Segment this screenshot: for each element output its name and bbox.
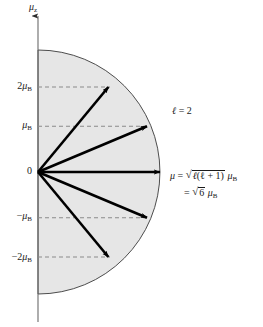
sqrt-radicand: ℓ(ℓ + 1): [192, 170, 225, 181]
unit-mu-symbol: μ: [208, 187, 213, 198]
sqrt-radical-icon: √: [192, 186, 198, 197]
tick-label-plus-mu-b: μB: [0, 120, 32, 130]
formula-line-1: μ = √ ℓ(ℓ + 1) μB: [170, 170, 237, 181]
vector-model-figure: μz 2μB μB 0 −μB −2μB ℓ = 2 μ = √ ℓ(ℓ + 1…: [0, 0, 263, 327]
tick-subscript: B: [27, 256, 32, 264]
sqrt-radical-icon: √: [186, 169, 192, 180]
mu-z-axis-label: μz: [29, 2, 37, 12]
mu-z-subscript: z: [34, 6, 37, 14]
sqrt-expression: √ 6: [192, 187, 205, 198]
annotation-mu-magnitude-formula: μ = √ ℓ(ℓ + 1) μB = √ 6 μB: [170, 170, 237, 198]
tick-prefix: 0: [27, 165, 32, 176]
tick-label-minus-mu-b: −μB: [0, 211, 32, 221]
equals-sign: =: [184, 187, 190, 198]
tick-label-zero: 0: [0, 166, 32, 176]
formula-line-2: = √ 6 μB: [170, 187, 237, 198]
radicand-rest: (ℓ + 1): [197, 170, 224, 181]
diagram-canvas: [0, 0, 263, 327]
ell-symbol: ℓ: [172, 105, 176, 116]
sqrt-expression: √ ℓ(ℓ + 1): [186, 170, 225, 181]
annotation-ell-equals-2: ℓ = 2: [172, 106, 192, 116]
mu-symbol: μ: [170, 170, 175, 181]
tick-subscript: B: [27, 215, 32, 223]
unit-mu-subscript: B: [213, 192, 218, 200]
tick-label-plus-2mu-b: 2μB: [0, 81, 32, 91]
sqrt-radicand: 6: [198, 187, 205, 198]
tick-label-minus-2mu-b: −2μB: [0, 252, 32, 262]
tick-subscript: B: [27, 85, 32, 93]
tick-subscript: B: [27, 124, 32, 132]
ell-equals-value: = 2: [179, 105, 192, 116]
equals-sign: =: [178, 170, 184, 181]
tick-prefix: −2: [12, 251, 23, 262]
unit-mu-subscript: B: [232, 175, 237, 183]
